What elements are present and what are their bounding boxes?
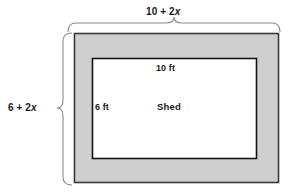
geometry-figure: 10 + 2x 6 + 2x 10 ft 6 ft Shed — [0, 0, 288, 196]
height-brace-icon — [57, 33, 72, 185]
inner-width-label: 10 ft — [156, 64, 175, 73]
figure-graphics — [0, 0, 288, 196]
outer-height-variable: x — [31, 102, 37, 113]
outer-height-label: 6 + 2x — [8, 103, 37, 113]
shed-label: Shed — [157, 102, 181, 112]
outer-width-label: 10 + 2x — [146, 7, 180, 17]
outer-height-expression: 6 + 2 — [8, 102, 31, 113]
width-brace-icon — [68, 17, 280, 32]
outer-width-expression: 10 + 2 — [146, 6, 175, 17]
outer-width-variable: x — [175, 6, 181, 17]
inner-height-label: 6 ft — [95, 103, 109, 112]
